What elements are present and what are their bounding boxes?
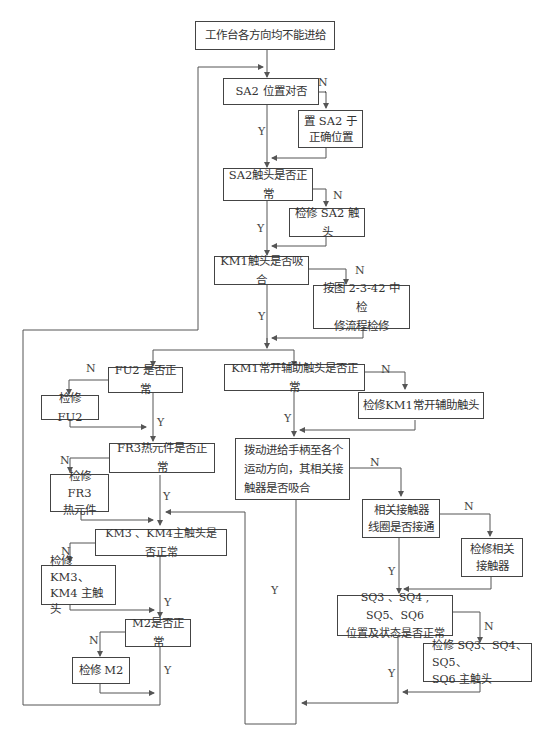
node-set-sa2: 置 SA2 于 正确位置	[298, 110, 363, 148]
label-no: N	[60, 454, 70, 467]
label-yes: Y	[258, 125, 265, 138]
node-sa2-position: SA2 位置对否	[223, 78, 319, 105]
label-no: N	[370, 456, 380, 469]
node-start: 工作台各方向均不能进给	[195, 21, 335, 50]
node-handle: 拨动进给手柄至各个 运动方向，其相关接 触器是否吸合	[235, 438, 350, 500]
node-km1-contact: KM1触头是否吸合	[214, 256, 309, 285]
label-yes: Y	[284, 412, 291, 425]
node-sa2-contact: SA2触头是否正常	[223, 168, 313, 201]
label-yes: Y	[164, 664, 171, 677]
node-repair-km1-aux: 检修KM1常开辅助触头	[358, 392, 484, 419]
node-repair-fr3: 检修 FR3 热元件	[50, 474, 109, 512]
node-per-figure: 按图 2-3-42 中检 修流程检修	[313, 285, 410, 329]
node-m2: M2是否正常	[125, 619, 191, 647]
node-repair-sa2: 检修 SA2 触头	[289, 208, 365, 237]
node-coil: 相关接触器 线圈是否接通	[362, 499, 440, 538]
node-km1-aux: KM1常开辅助触头是否正常	[224, 364, 365, 391]
label-yes: Y	[163, 490, 170, 503]
label-no: N	[89, 634, 99, 647]
label-no: N	[381, 363, 391, 376]
label-yes: Y	[157, 416, 164, 429]
node-repair-sq: 检修 SQ3、SQ4、SQ5、 SQ6 主触头	[423, 643, 532, 682]
label-yes: Y	[388, 565, 395, 578]
node-repair-fu2: 检修 FU2	[41, 395, 99, 420]
label-yes: Y	[257, 222, 264, 235]
label-no: N	[333, 189, 343, 202]
label-no: N	[464, 500, 474, 513]
node-repair-contactor: 检修相关 接触器	[461, 538, 523, 577]
label-yes: Y	[271, 584, 278, 597]
node-repair-m2: 检修 M2	[72, 657, 130, 684]
node-km3-km4: KM3 、KM4主触头是否正常	[95, 529, 227, 556]
label-yes: Y	[388, 667, 395, 680]
node-fr3: FR3热元件是否正常	[109, 443, 215, 473]
label-no: N	[61, 545, 71, 558]
label-yes: Y	[258, 310, 265, 323]
label-no: N	[355, 264, 365, 277]
node-repair-km3-km4: 检修 KM3、 KM4 主触头	[41, 565, 116, 605]
label-no: N	[86, 362, 96, 375]
label-no: N	[484, 620, 494, 633]
label-no: N	[318, 76, 328, 89]
label-yes: Y	[164, 596, 171, 609]
node-fu2: FU2 是否正常	[108, 367, 183, 393]
node-sq: SQ3 、SQ4 , SQ5、SQ6 位置及状态是否正常	[337, 595, 453, 636]
